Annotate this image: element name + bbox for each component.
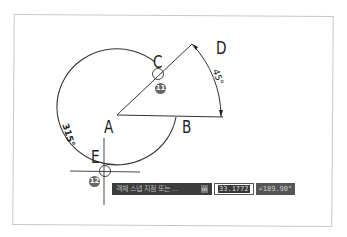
label-a: A [104,117,113,137]
badge-11: 11 [155,83,166,94]
prompt-text: 객체 스냅 지점 또는 ... [116,183,178,195]
prompt-key[interactable]: m [201,185,208,193]
crosshair-h [70,171,140,172]
dynamic-input-bar: 객체 스냅 지점 또는 ... m 33.1772 ∠189.90° [112,183,295,195]
badge-12: 12 [89,176,100,187]
label-b: B [182,117,191,137]
distance-value[interactable]: 33.1772 [218,185,250,193]
distance-input[interactable]: 33.1772 [214,183,254,195]
label-c: C [153,52,163,72]
arrow-b [219,110,223,117]
line-a-b [117,115,223,117]
command-prompt: 객체 스냅 지점 또는 ... m [112,183,212,195]
angle-input[interactable]: ∠189.90° [256,183,296,195]
label-d: D [216,38,226,58]
label-e: E [91,147,100,167]
geometry-drawing [0,0,347,237]
